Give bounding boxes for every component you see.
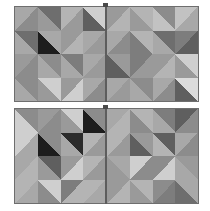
tile-grid <box>107 7 198 101</box>
tile <box>153 7 176 31</box>
tile <box>15 133 38 157</box>
tile <box>153 78 176 102</box>
tile <box>38 78 61 102</box>
bottom-seam-nub <box>103 105 108 109</box>
tile <box>130 180 153 204</box>
tile <box>175 180 198 204</box>
tile <box>153 156 176 180</box>
tile <box>153 109 176 133</box>
tile <box>175 109 198 133</box>
tile <box>38 133 61 157</box>
tile <box>61 180 84 204</box>
tile <box>130 109 153 133</box>
tile <box>15 78 38 102</box>
tile <box>107 133 130 157</box>
tile <box>107 180 130 204</box>
tile <box>130 133 153 157</box>
tile <box>61 54 84 78</box>
tile <box>61 156 84 180</box>
tile <box>38 156 61 180</box>
tile <box>38 7 61 31</box>
tile <box>130 156 153 180</box>
bottom-right-panel <box>106 108 199 204</box>
tile <box>83 109 106 133</box>
tile <box>83 133 106 157</box>
tile <box>153 180 176 204</box>
tile <box>83 54 106 78</box>
tile <box>153 31 176 55</box>
top-right-panel <box>106 6 199 102</box>
tile <box>83 7 106 31</box>
tile <box>38 109 61 133</box>
tile <box>83 156 106 180</box>
tile <box>175 156 198 180</box>
tile <box>175 78 198 102</box>
tile-grid <box>107 109 198 203</box>
image-canvas <box>0 0 210 211</box>
tile <box>61 7 84 31</box>
tile <box>61 31 84 55</box>
tile <box>61 133 84 157</box>
tile-grid <box>15 7 106 101</box>
top-seam-nub <box>103 3 108 7</box>
tile-grid <box>15 109 106 203</box>
tile <box>38 180 61 204</box>
tile <box>15 7 38 31</box>
tile <box>83 78 106 102</box>
tile <box>175 7 198 31</box>
tile <box>107 31 130 55</box>
tile <box>61 109 84 133</box>
top-vertical-seam <box>105 6 107 102</box>
tile <box>15 180 38 204</box>
tile <box>153 133 176 157</box>
tile <box>130 54 153 78</box>
tile <box>15 31 38 55</box>
tile <box>175 31 198 55</box>
tile <box>15 54 38 78</box>
bottom-left-panel <box>14 108 107 204</box>
tile <box>107 54 130 78</box>
tile <box>15 156 38 180</box>
tile <box>107 78 130 102</box>
tile <box>130 78 153 102</box>
tile <box>38 54 61 78</box>
tile <box>175 54 198 78</box>
tile <box>107 109 130 133</box>
tile <box>130 7 153 31</box>
bottom-vertical-seam <box>105 108 107 204</box>
tile <box>107 156 130 180</box>
tile <box>130 31 153 55</box>
tile <box>175 133 198 157</box>
top-left-panel <box>14 6 107 102</box>
tile <box>61 78 84 102</box>
tile <box>153 54 176 78</box>
tile <box>15 109 38 133</box>
tile <box>83 180 106 204</box>
tile <box>38 31 61 55</box>
tile <box>107 7 130 31</box>
tile <box>83 31 106 55</box>
